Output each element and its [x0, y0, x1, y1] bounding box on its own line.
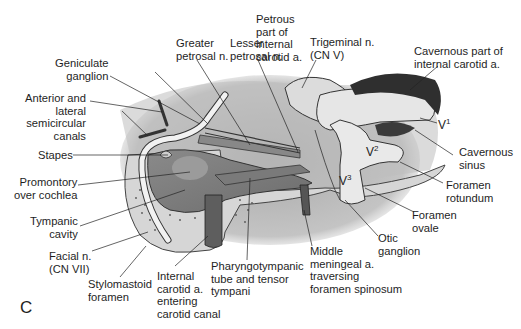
label-otic-ganglion: Otic ganglion — [378, 232, 420, 257]
label-v2: V2 — [366, 143, 378, 159]
label-foramen-ovale: Foramen ovale — [412, 209, 457, 234]
panel-letter: C — [20, 298, 32, 318]
v1-superscript: 1 — [446, 117, 450, 126]
label-v1: V1 — [438, 116, 450, 132]
label-semicircular-canals: Anterior and lateral semicircular canals — [25, 92, 86, 142]
label-foramen-rotundum: Foramen rotundum — [446, 179, 493, 204]
label-pharyngotympanic-tube: Pharyngotympanic tube and tensor tympani — [211, 260, 304, 298]
label-facial-nerve: Facial n. (CN VII) — [49, 250, 91, 275]
label-promontory: Promontory over cochlea — [14, 176, 77, 201]
internal-carotid-shape — [205, 195, 222, 248]
v1-letter: V — [438, 118, 446, 132]
label-greater-petrosal: Greater petrosal n. — [176, 37, 228, 62]
label-v3: V3 — [339, 172, 351, 188]
label-tympanic-cavity: Tympanic cavity — [30, 215, 78, 240]
label-stylomastoid-foramen: Stylomastoid foramen — [88, 278, 152, 303]
v2-superscript: 2 — [374, 144, 378, 153]
label-trigeminal-nerve: Trigeminal n. (CN V) — [310, 36, 374, 61]
label-stapes: Stapes — [38, 149, 73, 162]
label-geniculate-ganglion: Geniculate ganglion — [55, 57, 109, 82]
label-petrous-internal-carotid: Petrous part of internal carotid a. — [256, 13, 302, 63]
v2-letter: V — [366, 145, 374, 159]
label-cavernous-sinus: Cavernous sinus — [459, 146, 513, 171]
v3-superscript: 3 — [347, 173, 351, 182]
promontory-shape — [172, 156, 208, 180]
v3-letter: V — [339, 174, 347, 188]
label-cavernous-internal-carotid: Cavernous part of internal carotid a. — [414, 45, 503, 70]
